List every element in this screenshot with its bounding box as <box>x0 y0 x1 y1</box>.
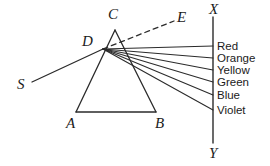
diagram-canvas: S C D E A B X Y Red Orange Yellow Green … <box>0 0 270 166</box>
spectrum-ray-violet <box>103 49 213 110</box>
spectrum-label-yellow: Yellow <box>217 64 251 76</box>
label-base-right-b: B <box>155 115 164 131</box>
label-source-s: S <box>17 76 25 92</box>
undeviated-ray-dashed-line <box>103 21 174 49</box>
label-apex-c: C <box>108 6 119 22</box>
spectrum-label-violet: Violet <box>217 104 246 116</box>
label-screen-top-x: X <box>208 1 219 17</box>
spectrum-ray-group <box>103 46 213 110</box>
spectrum-label-green: Green <box>217 76 249 88</box>
spectrum-ray-red <box>103 46 213 49</box>
label-screen-bottom-y: Y <box>209 145 219 161</box>
spectrum-label-group: Red Orange Yellow Green Blue Violet <box>217 40 255 116</box>
label-base-left-a: A <box>65 115 76 131</box>
label-undeviated-e: E <box>176 9 186 25</box>
spectrum-ray-blue <box>103 49 213 95</box>
prism-dispersion-diagram: S C D E A B X Y Red Orange Yellow Green … <box>0 0 270 166</box>
spectrum-label-red: Red <box>217 40 238 52</box>
spectrum-label-blue: Blue <box>217 89 240 101</box>
spectrum-label-orange: Orange <box>217 52 255 64</box>
spectrum-ray-yellow <box>103 49 213 70</box>
label-dispersion-d: D <box>81 33 93 49</box>
